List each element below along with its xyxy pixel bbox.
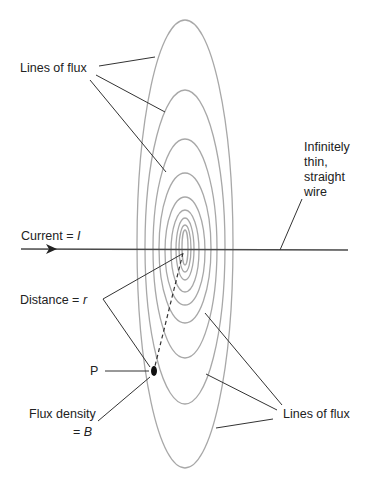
point-p-marker bbox=[151, 366, 157, 376]
wire bbox=[21, 249, 348, 250]
label-distance-symbol: r bbox=[83, 293, 87, 307]
flux-ring-4 bbox=[159, 173, 211, 323]
flux-rings bbox=[137, 20, 233, 468]
label-point-p: P bbox=[90, 364, 98, 379]
label-current: Current = I bbox=[21, 229, 80, 244]
leader-line-flux-density bbox=[98, 377, 150, 421]
flux-ring-3 bbox=[153, 139, 217, 358]
distance-dashed-line bbox=[155, 253, 183, 366]
label-distance-prefix: Distance = bbox=[20, 293, 83, 307]
label-wire-line4: wire bbox=[304, 185, 327, 200]
label-flux-density-line2: = B bbox=[73, 425, 92, 440]
label-lines-of-flux-bottom: Lines of flux bbox=[283, 407, 350, 422]
flux-diagram: Lines of flux Infinitely thin, straight … bbox=[0, 0, 373, 481]
flux-ring-9 bbox=[182, 230, 188, 265]
label-current-symbol: I bbox=[77, 229, 80, 243]
leader-line-wire bbox=[280, 199, 302, 250]
label-wire-line3: straight bbox=[304, 170, 345, 185]
leader-lines-top-flux bbox=[90, 57, 166, 172]
label-flux-density-prefix: = bbox=[73, 425, 84, 439]
flux-ring-1 bbox=[137, 20, 233, 468]
label-lines-of-flux-top: Lines of flux bbox=[20, 61, 87, 76]
label-flux-density-line1: Flux density bbox=[29, 407, 96, 422]
label-flux-density-symbol: B bbox=[84, 425, 92, 439]
label-wire-line1: Infinitely bbox=[304, 140, 350, 155]
label-current-prefix: Current = bbox=[21, 229, 77, 243]
label-wire-line2: thin, bbox=[304, 155, 328, 170]
label-distance: Distance = r bbox=[20, 293, 87, 308]
